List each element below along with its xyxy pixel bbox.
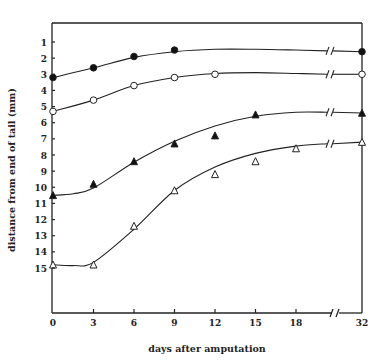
open-circle-marker: [359, 71, 366, 78]
filled-triangle-marker: [252, 111, 259, 118]
y-tick-label: 7: [41, 134, 47, 144]
open-circle-marker: [212, 71, 219, 78]
open-triangle-marker: [90, 261, 97, 268]
y-tick-label: 3: [41, 70, 47, 80]
open-triangle-marker: [131, 222, 138, 229]
filled-circle-marker: [131, 53, 138, 60]
open-triangle-marker: [212, 171, 219, 178]
filled-circle-marker: [50, 74, 57, 81]
filled-triangle-marker: [171, 140, 178, 147]
y-tick-label: 6: [41, 118, 47, 128]
open-circle-marker: [90, 97, 97, 104]
x-tick-label: 12: [209, 318, 222, 328]
y-tick-label: 9: [41, 167, 47, 177]
y-tick-label: 4: [41, 86, 47, 96]
y-tick-label: 10: [34, 183, 47, 193]
y-tick-label: 1: [41, 38, 47, 48]
filled-triangle-marker: [212, 132, 219, 139]
open-triangle-marker: [252, 158, 259, 165]
x-tick-label: 18: [290, 318, 303, 328]
filled-triangle-marker: [90, 180, 97, 187]
y-tick-label: 12: [34, 215, 47, 225]
chart: 036912151832 123456789101112131415 days …: [0, 0, 385, 363]
x-tick-label: 3: [90, 318, 96, 328]
filled-circle-marker: [90, 65, 97, 72]
y-tick-label: 14: [34, 247, 47, 257]
open-triangle-marker: [171, 187, 178, 194]
x-tick-label: 15: [249, 318, 262, 328]
y-tick-label: 8: [41, 151, 47, 161]
x-tick-label: 6: [131, 318, 137, 328]
x-tick-label: 0: [50, 318, 56, 328]
x-axis-ticks: 036912151832: [50, 309, 368, 328]
fitted-curves: [53, 47, 362, 266]
fitted-curve-open-triangle: [53, 144, 327, 266]
filled-circle-marker: [359, 48, 366, 55]
y-tick-label: 5: [41, 102, 47, 112]
y-tick-label: 13: [34, 231, 47, 241]
y-tick-label: 11: [34, 199, 47, 209]
fitted-curve-open-circle: [53, 73, 327, 112]
y-tick-label: 15: [34, 264, 47, 274]
open-circle-marker: [131, 82, 138, 89]
y-axis-title: distance from end of tail (mm): [6, 88, 17, 252]
filled-circle-marker: [171, 47, 178, 54]
x-tick-label: 32: [356, 318, 369, 328]
data-markers: [50, 47, 366, 268]
open-circle-marker: [50, 108, 57, 115]
x-axis-title: days after amputation: [148, 343, 266, 354]
x-tick-label: 9: [171, 318, 177, 328]
y-tick-label: 2: [41, 54, 47, 64]
open-circle-marker: [171, 74, 178, 81]
